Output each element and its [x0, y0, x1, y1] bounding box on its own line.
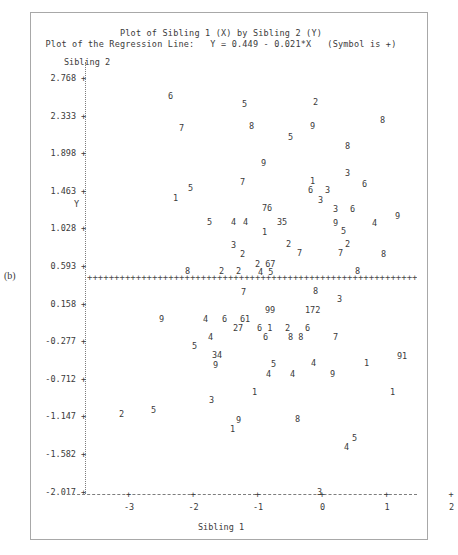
data-point: 5: [271, 360, 276, 368]
data-point: 27: [233, 324, 243, 332]
data-point: 8: [313, 287, 318, 295]
y-tick-label: 2.333: [20, 112, 76, 120]
data-point: 91: [397, 352, 407, 360]
data-point: 2: [240, 250, 245, 258]
data-point: 3: [337, 295, 342, 303]
data-point: 6: [305, 324, 310, 332]
data-point: 9: [261, 159, 266, 167]
data-point: 4: [290, 370, 295, 378]
data-point: 5: [341, 227, 346, 235]
y-tick-mark: +: [81, 412, 86, 420]
data-point: 9: [236, 416, 241, 424]
x-axis-spine: [62, 494, 417, 496]
data-point: 3: [318, 196, 323, 204]
data-point: 7: [241, 288, 246, 296]
data-point: 3: [345, 169, 350, 177]
y-tick-mark: +: [81, 112, 86, 120]
y-tick-label: 0.593: [20, 262, 76, 270]
data-point: 4: [344, 443, 349, 451]
x-tick-label: 0: [313, 503, 333, 512]
data-point: 8: [345, 142, 350, 150]
data-point: 8: [295, 415, 300, 423]
data-point: 6: [222, 315, 227, 323]
data-point: 2: [219, 267, 224, 275]
data-point: 7: [240, 178, 245, 186]
data-point: 1: [364, 359, 369, 367]
x-tick-label: 2: [442, 503, 458, 512]
data-point: 8: [380, 116, 385, 124]
data-point: 6: [263, 333, 268, 341]
data-point: 6: [350, 205, 355, 213]
data-point: 7: [338, 249, 343, 257]
y-tick-mark: +: [81, 337, 86, 345]
data-point: 2: [313, 98, 318, 106]
data-point: 3: [325, 186, 330, 194]
data-point: 7: [333, 333, 338, 341]
data-point: 7: [179, 124, 184, 132]
y-tick-mark: +: [81, 375, 86, 383]
chart-subtitle: Plot of the Regression Line: Y = 0.449 -…: [0, 39, 442, 49]
data-point: 35: [277, 218, 287, 226]
data-point: 4 5: [258, 268, 273, 276]
data-point: 8: [249, 122, 254, 130]
data-point: 1: [310, 177, 315, 185]
data-point: 5: [207, 218, 212, 226]
data-point: 6: [308, 186, 313, 194]
data-point: 9: [213, 361, 218, 369]
chart-title: Plot of Sibling 1 (X) by Sibling 2 (Y): [0, 28, 442, 38]
data-point: 3: [231, 241, 236, 249]
data-point: 4: [266, 370, 271, 378]
data-point: 4: [203, 315, 208, 323]
y-tick-mark: +: [81, 74, 86, 82]
x-axis-title: Sibling 1: [0, 522, 442, 532]
data-point: 2: [285, 324, 290, 332]
y-tick-mark: +: [81, 224, 86, 232]
x-tick-label: 1: [377, 503, 397, 512]
y-tick-label: 1.463: [20, 187, 76, 195]
data-point: 1: [252, 388, 257, 396]
data-point: 5: [288, 133, 293, 141]
data-point: 172: [305, 306, 320, 314]
data-point: 1: [230, 425, 235, 433]
y-tick-label: -1.582: [20, 450, 76, 458]
data-point: 3: [317, 488, 322, 496]
data-point: 5: [151, 406, 156, 414]
y-tick-mark: +: [81, 149, 86, 157]
x-tick-mark: +: [384, 490, 389, 498]
data-point: 5: [352, 434, 357, 442]
data-point: 6: [362, 180, 367, 188]
data-point: 3: [209, 396, 214, 404]
data-point: 34: [212, 351, 222, 359]
y-tick-mark: +: [81, 300, 86, 308]
data-point: 5: [188, 184, 193, 192]
data-point: 9: [159, 315, 164, 323]
x-tick-label: -1: [248, 503, 268, 512]
data-point: 8 8: [288, 333, 303, 341]
x-tick-mark: +: [449, 490, 454, 498]
y-tick-label: -0.277: [20, 337, 76, 345]
y-tick-label: 1.028: [20, 224, 76, 232]
data-point: 76: [262, 204, 272, 212]
data-point: 1: [173, 194, 178, 202]
data-point: 2: [286, 240, 291, 248]
x-tick-label: -2: [184, 503, 204, 512]
panel-letter: (b): [4, 270, 16, 281]
data-point: 5: [242, 100, 247, 108]
data-point: 4: [311, 359, 316, 367]
data-point: 5: [192, 342, 197, 350]
data-point: 8: [355, 267, 360, 275]
y-tick-label: 1.898: [20, 149, 76, 157]
data-point: 4: [231, 218, 236, 226]
y-tick-mark: +: [81, 450, 86, 458]
y-tick-label: -0.712: [20, 375, 76, 383]
data-point: 9: [330, 370, 335, 378]
data-point: 99: [265, 306, 275, 314]
data-point: 6 1: [257, 324, 272, 332]
y-tick-label: 2.768: [20, 74, 76, 82]
data-point: 9: [395, 212, 400, 220]
data-point: 2: [119, 410, 124, 418]
x-tick-mark: +: [255, 490, 260, 498]
x-tick-label: -3: [119, 503, 139, 512]
y-tick-mark: +: [81, 262, 86, 270]
